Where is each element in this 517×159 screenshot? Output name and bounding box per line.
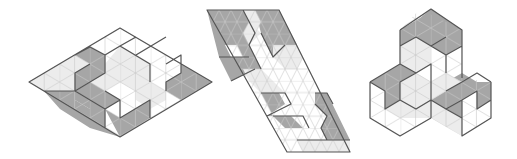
- parallelogram-figure: [207, 10, 350, 152]
- rhombus-figure: [29, 28, 212, 137]
- grid-overlay: [207, 10, 350, 152]
- cube-cluster-figure: [370, 9, 491, 136]
- grid-overlay: [29, 28, 212, 137]
- tiling-diagram: [0, 0, 517, 159]
